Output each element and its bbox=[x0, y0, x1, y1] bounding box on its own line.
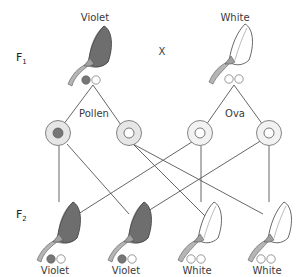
offspring-flower-2 bbox=[108, 202, 151, 263]
ova-label: Ova bbox=[225, 108, 245, 119]
gamete-pollen-dominant bbox=[46, 121, 71, 146]
offspring-label-3: White bbox=[182, 265, 211, 276]
offspring-label-4: White bbox=[252, 265, 281, 276]
offspring-flower-1 bbox=[37, 202, 80, 263]
gamete-ovum-recessive-1 bbox=[188, 121, 213, 146]
gamete-lines bbox=[63, 85, 263, 125]
gamete-ovum-recessive-2 bbox=[257, 121, 282, 146]
parent-flower-white bbox=[209, 24, 252, 84]
generation-index: 1 bbox=[22, 58, 26, 66]
offspring-label-2: Violet bbox=[112, 265, 140, 276]
gamete-pollen-recessive bbox=[117, 121, 142, 146]
generation-index: 2 bbox=[22, 215, 26, 223]
cross-symbol: X bbox=[159, 46, 166, 57]
cross-lines bbox=[59, 140, 269, 216]
generation-label-f2: F2 bbox=[16, 208, 27, 223]
parent-label-white: White bbox=[220, 12, 249, 23]
generation-label-f1: F1 bbox=[16, 51, 27, 66]
parent-flower-violet bbox=[68, 26, 111, 86]
pollen-label: Pollen bbox=[79, 108, 109, 119]
offspring-flower-4 bbox=[248, 202, 291, 263]
offspring-label-1: Violet bbox=[41, 265, 69, 276]
parent-label-violet: Violet bbox=[81, 12, 109, 23]
cross-diagram bbox=[0, 0, 297, 277]
